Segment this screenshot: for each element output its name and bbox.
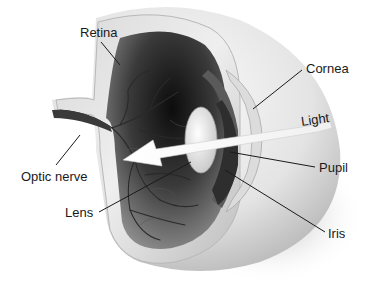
label-retina: Retina (80, 26, 118, 39)
label-pupil: Pupil (319, 161, 348, 174)
label-iris: Iris (328, 227, 345, 240)
label-light: Light (300, 111, 330, 128)
eye-diagram (0, 0, 368, 285)
optic-nerve-leader (56, 135, 80, 165)
label-optic-nerve: Optic nerve (21, 170, 87, 183)
label-lens: Lens (65, 206, 93, 219)
label-cornea: Cornea (306, 62, 349, 75)
